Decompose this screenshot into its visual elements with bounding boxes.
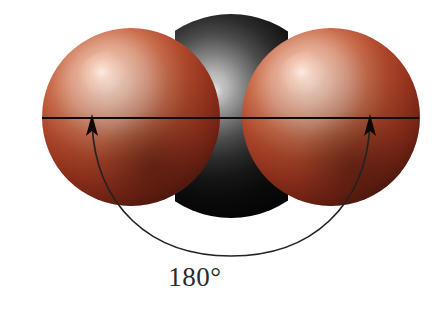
- molecule-figure: 180°: [0, 0, 448, 310]
- bond-angle-label: 180°: [0, 264, 448, 291]
- bond-angle-text: 180°: [168, 264, 221, 291]
